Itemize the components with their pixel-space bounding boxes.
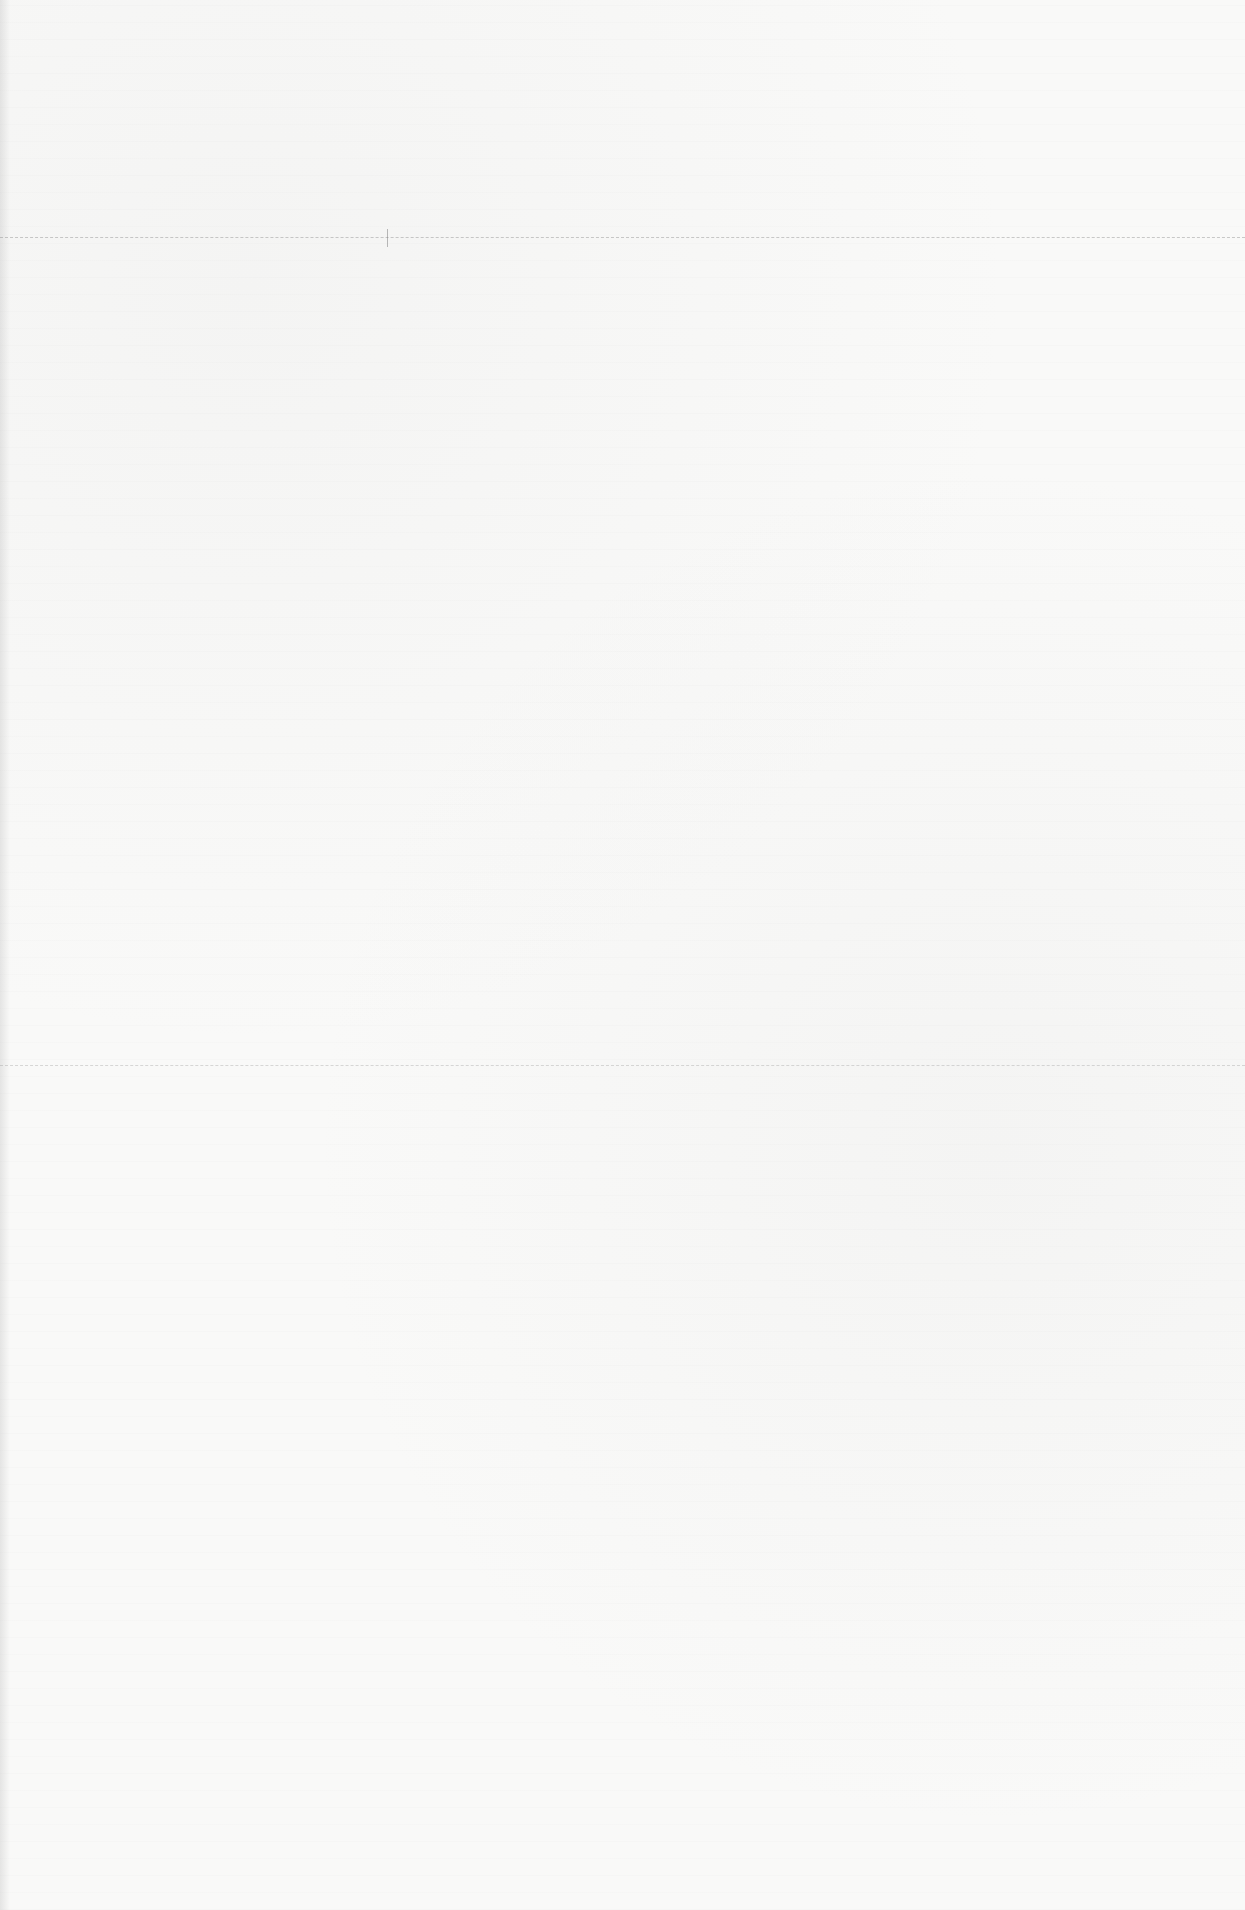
page-edge-shadow (0, 0, 10, 1910)
fold-mark (387, 229, 388, 247)
fold-line-middle (0, 1065, 1245, 1066)
blank-scanned-page (0, 0, 1245, 1910)
fold-line-top (0, 237, 1245, 238)
